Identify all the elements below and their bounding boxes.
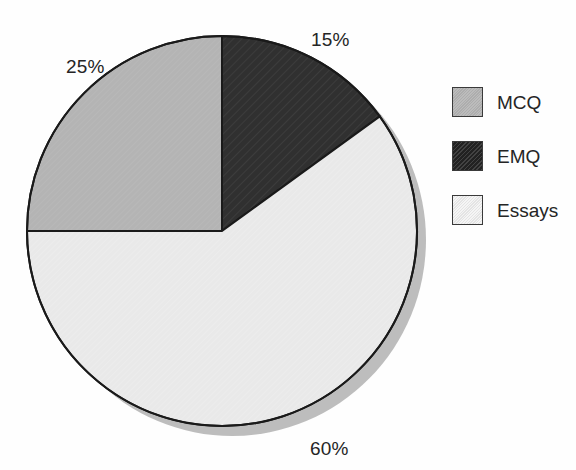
legend-label-mcq: MCQ xyxy=(497,93,541,112)
legend-item-mcq[interactable]: MCQ xyxy=(452,86,576,118)
legend-swatch-essays-icon xyxy=(452,195,483,225)
chart-legend: MCQ EMQ Essays xyxy=(452,86,576,248)
pie-chart-figure: 15% 25% 60% MCQ EMQ Essays xyxy=(0,0,576,470)
legend-swatch-mcq-icon xyxy=(452,87,483,117)
legend-swatch-emq-icon xyxy=(452,141,483,171)
slice-label-mcq-percent: 25% xyxy=(66,57,105,76)
legend-label-emq: EMQ xyxy=(497,147,540,166)
pie-slice-mcq[interactable] xyxy=(27,36,222,231)
legend-item-emq[interactable]: EMQ xyxy=(452,140,576,172)
legend-item-essays[interactable]: Essays xyxy=(452,194,576,226)
slice-label-essays-percent: 60% xyxy=(310,439,349,458)
slice-label-emq-percent: 15% xyxy=(311,30,350,49)
legend-label-essays: Essays xyxy=(497,201,558,220)
